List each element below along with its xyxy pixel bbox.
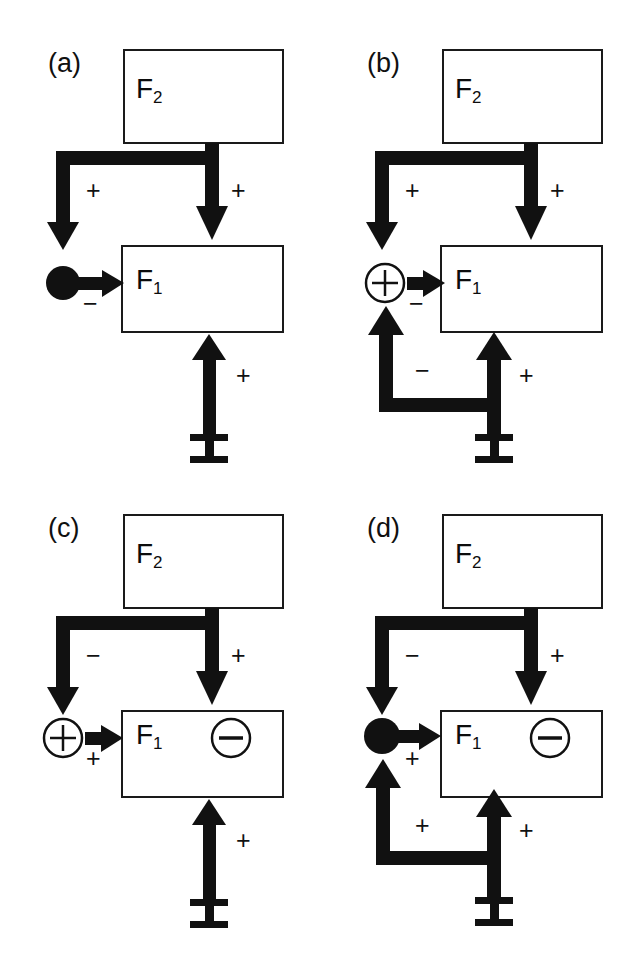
panel-a-left-arrow-shaft	[56, 151, 70, 229]
panel-a-left-arrow-head	[47, 222, 79, 250]
panel-d-junction-arrow-shaft	[395, 730, 423, 743]
panel-c-right-arrow-shaft	[205, 616, 219, 678]
panel-b-feedback-bar	[379, 398, 501, 412]
panel-d-left-branch-sign: −	[405, 643, 420, 668]
panel-a-branch-bar	[56, 151, 219, 165]
panel-d-f1-text: F1	[455, 721, 482, 749]
panel-d-right-branch-sign: +	[550, 643, 565, 668]
panel-a: (a)	[0, 0, 319, 483]
panel-a-input-arrow-shaft	[203, 356, 216, 434]
panel-b-right-branch-sign: +	[550, 178, 565, 203]
panel-d-feedback-left-head	[365, 759, 401, 788]
panel-b-left-arrow-shaft	[375, 151, 389, 229]
panel-b-feedback-left-head	[368, 306, 404, 335]
panel-c-branch-bar	[56, 616, 219, 630]
panel-b-f2-text: F2	[455, 75, 482, 103]
panel-d-right-arrow-shaft	[524, 616, 538, 678]
panel-d-input-i-bottom	[475, 919, 513, 926]
panel-a-junction-disc	[46, 266, 80, 300]
panel-c: (c) F2 F1 − +	[0, 483, 319, 966]
panel-d-left-arrow-head	[366, 687, 398, 715]
panel-a-input-arrow-head	[192, 334, 226, 360]
panel-c-f1-text: F1	[136, 721, 163, 749]
panel-b-f1-text: F1	[455, 266, 482, 294]
panel-a-left-branch-sign: +	[86, 178, 101, 203]
panel-b-branch-bar	[375, 151, 538, 165]
panel-d-junction-arrow-sign: +	[405, 746, 420, 771]
panel-b-left-arrow-head	[366, 222, 398, 250]
panel-c-junction-arrow-head	[101, 725, 123, 752]
panel-d-input-stem	[487, 851, 501, 897]
panel-d-left-arrow-shaft	[375, 616, 389, 694]
panel-c-right-branch-sign: +	[231, 643, 246, 668]
panel-b-right-arrow-head	[515, 206, 547, 240]
panel-d-junction-arrow-head	[419, 723, 441, 750]
panel-a-right-branch-sign: +	[231, 178, 246, 203]
panel-b-feedback-right-head	[476, 332, 512, 360]
panel-c-left-branch-sign: −	[86, 643, 101, 668]
panel-a-f2-text: F2	[136, 75, 163, 103]
panel-b-feedback-left-sign: −	[415, 358, 430, 383]
panel-c-junction-arrow-sign: +	[86, 746, 101, 771]
panel-d-feedback-bar	[376, 851, 501, 865]
panel-c-left-arrow-shaft	[56, 616, 70, 694]
panel-a-f1-text: F1	[136, 266, 163, 294]
panel-a-junction-arrow-sign: −	[83, 291, 98, 316]
panel-b-left-branch-sign: +	[405, 178, 420, 203]
panel-d-right-arrow-head	[515, 671, 547, 705]
panel-d-feedback-right-sign: +	[519, 818, 534, 843]
panel-c-input-arrow-shaft	[203, 821, 216, 899]
panel-a-right-arrow-shaft	[205, 151, 219, 213]
figure-canvas: (a)	[0, 0, 638, 967]
panel-a-right-arrow-head	[196, 206, 228, 240]
panel-d: (d)	[319, 483, 638, 966]
panel-c-input-arrow-head	[192, 799, 226, 825]
panel-b: (b)	[319, 0, 638, 483]
panel-c-input-sign: +	[236, 828, 251, 853]
panel-c-left-arrow-head	[47, 687, 79, 715]
panel-b-input-stem	[487, 398, 501, 434]
panel-a-input-i-bottom	[190, 456, 228, 463]
panel-c-right-arrow-head	[196, 671, 228, 705]
panel-d-f2-text: F2	[455, 540, 482, 568]
panel-a-input-sign: +	[236, 363, 251, 388]
panel-d-junction-disc	[364, 718, 400, 754]
panel-c-f2-text: F2	[136, 540, 163, 568]
panel-b-right-arrow-shaft	[524, 151, 538, 213]
panel-c-input-i-bottom	[190, 921, 228, 928]
panel-a-junction-arrow-head	[102, 270, 124, 297]
panel-b-junction-arrow-sign: −	[409, 291, 424, 316]
panel-b-feedback-right-sign: +	[519, 363, 534, 388]
panel-b-input-i-bottom	[475, 456, 513, 463]
panel-d-branch-bar	[375, 616, 538, 630]
panel-d-feedback-left-sign: +	[415, 813, 430, 838]
